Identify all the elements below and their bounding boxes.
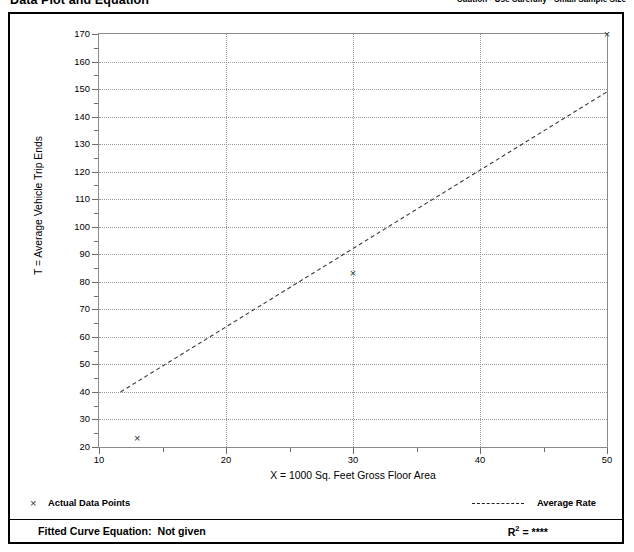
chart-footer: Fitted Curve Equation: Not given R2 = **… (8, 521, 624, 544)
y-axis-tick-label: 60 (50, 332, 90, 341)
x-axis-minor-tick (163, 448, 164, 452)
data-point-marker (348, 268, 359, 279)
x-mark-icon (30, 497, 36, 509)
fitted-curve-equation-label: Fitted Curve Equation: (38, 525, 152, 537)
x-axis-tick-label: 30 (333, 455, 373, 465)
y-axis-tick-label: 140 (50, 112, 90, 121)
chart-legend: Actual Data Points Average Rate (8, 495, 624, 517)
x-axis-title: X = 1000 Sq. Feet Gross Floor Area (98, 470, 608, 481)
y-axis-tick-label: 90 (50, 249, 90, 258)
y-axis-tick-label: 20 (50, 442, 90, 451)
y-axis-tick-label: 130 (50, 139, 90, 148)
y-axis-tick-label: 30 (50, 414, 90, 423)
y-axis-tick-label: 100 (50, 222, 90, 231)
y-axis-tick-label: 160 (50, 57, 90, 66)
fitted-curve-equation: Fitted Curve Equation: Not given (38, 525, 206, 537)
x-axis-tick-label: 10 (79, 455, 119, 465)
y-axis-tick-label: 40 (50, 387, 90, 396)
x-axis-tick-label: 20 (206, 455, 246, 465)
average-rate-line (99, 34, 607, 447)
y-axis-tick-label: 70 (50, 304, 90, 313)
y-axis-tick-label: 120 (50, 167, 90, 176)
r-squared-value: = **** (522, 526, 548, 538)
data-point-marker (602, 29, 613, 40)
y-axis-tick-label: 170 (50, 29, 90, 38)
chart-area: T = Average Vehicle Trip Ends X = 1000 S… (0, 0, 634, 552)
x-axis-tick-label: 50 (587, 455, 627, 465)
footer-divider (10, 519, 622, 520)
x-axis-minor-tick (290, 448, 291, 452)
x-axis-tick-label: 40 (460, 455, 500, 465)
dashed-line-icon (472, 503, 524, 504)
y-axis-tick-label: 110 (50, 194, 90, 203)
r-squared-exponent: 2 (515, 524, 519, 533)
fitted-curve-equation-value: Not given (157, 525, 205, 537)
average-rate-trendline (121, 92, 607, 392)
y-axis-title: T = Average Vehicle Trip Ends (33, 106, 44, 306)
legend-average-rate-label: Average Rate (537, 498, 596, 508)
data-point-marker (132, 433, 143, 444)
y-axis-tick-label: 50 (50, 359, 90, 368)
x-axis-minor-tick (417, 448, 418, 452)
y-axis-tick-label: 150 (50, 84, 90, 93)
x-axis-minor-tick (544, 448, 545, 452)
y-axis-tick-label: 80 (50, 277, 90, 286)
legend-actual-data-points-label: Actual Data Points (48, 498, 130, 508)
plot-frame (98, 33, 608, 448)
r-squared: R2 = **** (508, 524, 548, 538)
